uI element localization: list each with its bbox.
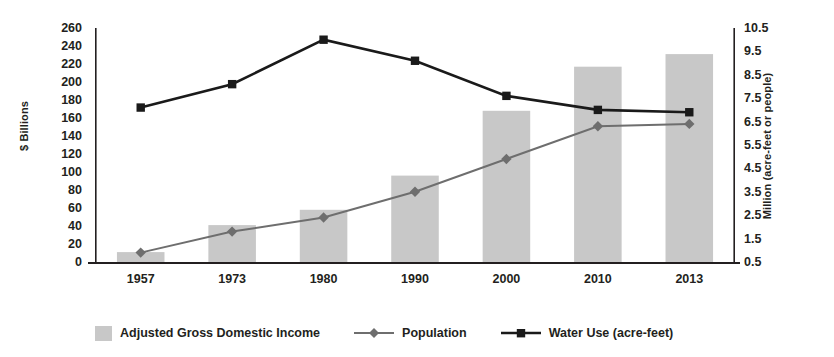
legend-diamond-marker <box>369 328 379 338</box>
y-axis-left-tick-label: 140 <box>61 130 82 143</box>
legend-bar-swatch-icon <box>95 326 112 341</box>
y-axis-right-tick-label: 9.5 <box>744 45 761 58</box>
x-axis-line <box>88 262 740 264</box>
plot-svg <box>95 28 735 262</box>
y-axis-left-ticks: 260240220200180160140120100806040200 <box>24 0 82 357</box>
bar <box>483 111 531 262</box>
chart-legend: Adjusted Gross Domestic IncomePopulation… <box>95 320 745 346</box>
y-axis-left-tick-label: 120 <box>61 148 82 161</box>
y-axis-right-tick-label: 1.5 <box>744 233 761 246</box>
chart-container: $ Billions 26024022020018016014012010080… <box>0 0 834 357</box>
y-axis-left-tick-label: 200 <box>61 76 82 89</box>
y-axis-left-tick-label: 0 <box>75 256 82 269</box>
x-axis-tick-label: 1973 <box>202 272 262 286</box>
y-axis-left-tick-label: 80 <box>68 184 82 197</box>
series-marker-square <box>685 108 693 116</box>
y-axis-left-tick-label: 20 <box>68 238 82 251</box>
series-marker-square <box>594 106 602 114</box>
x-axis-tick-label: 2000 <box>476 272 536 286</box>
legend-diamond-line-icon <box>354 327 394 339</box>
y-axis-right-ticks: 10.59.58.57.56.55.54.53.52.51.50.5 <box>744 0 800 357</box>
y-axis-left-tick-label: 40 <box>68 220 82 233</box>
y-axis-left-tick-label: 160 <box>61 112 82 125</box>
y-axis-right-tick-label: 8.5 <box>744 69 761 82</box>
legend-item-label: Water Use (acre-feet) <box>549 326 674 340</box>
bar <box>666 54 714 262</box>
x-axis-tick-label: 1957 <box>111 272 171 286</box>
series-marker-square <box>319 36 327 44</box>
y-axis-right-tick-label: 10.5 <box>744 22 768 35</box>
legend-item[interactable]: Population <box>354 326 467 340</box>
legend-square-marker <box>516 329 524 337</box>
y-axis-left-tick-label: 100 <box>61 166 82 179</box>
bar <box>574 67 622 262</box>
legend-square-line-icon <box>501 327 541 339</box>
y-axis-right-tick-label: 6.5 <box>744 116 761 129</box>
x-axis-tick-label: 1990 <box>385 272 445 286</box>
series-marker-square <box>411 57 419 65</box>
y-axis-right-tick-label: 2.5 <box>744 209 761 222</box>
series-marker-square <box>502 92 510 100</box>
y-axis-right-tick-label: 4.5 <box>744 162 761 175</box>
y-axis-right-tick-label: 7.5 <box>744 92 761 105</box>
y-axis-right-tick-label: 3.5 <box>744 186 761 199</box>
plot-area <box>95 28 735 262</box>
y-axis-left-tick-label: 240 <box>61 40 82 53</box>
y-axis-left-tick-label: 260 <box>61 22 82 35</box>
x-axis-ticks: 1957197319801990200020102013 <box>95 272 735 294</box>
legend-item[interactable]: Water Use (acre-feet) <box>501 326 674 340</box>
series-marker-square <box>137 103 145 111</box>
y-axis-right-tick-label: 5.5 <box>744 139 761 152</box>
legend-item[interactable]: Adjusted Gross Domestic Income <box>95 326 320 341</box>
x-axis-tick-label: 2013 <box>659 272 719 286</box>
y-axis-right-tick-label: 0.5 <box>744 256 761 269</box>
y-axis-left-tick-label: 180 <box>61 94 82 107</box>
legend-item-label: Population <box>402 326 467 340</box>
legend-item-label: Adjusted Gross Domestic Income <box>120 326 320 340</box>
x-axis-tick-label: 2010 <box>568 272 628 286</box>
x-axis-tick-label: 1980 <box>294 272 354 286</box>
series-marker-square <box>228 80 236 88</box>
y-axis-left-tick-label: 60 <box>68 202 82 215</box>
y-axis-left-tick-label: 220 <box>61 58 82 71</box>
